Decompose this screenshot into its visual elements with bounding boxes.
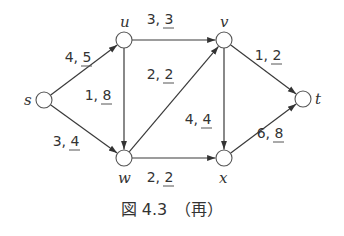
flow-value: 2, bbox=[147, 169, 165, 185]
flow-value: 1, bbox=[255, 47, 273, 63]
flow-value: 4, bbox=[65, 49, 83, 65]
capacity-value: 3 bbox=[164, 11, 173, 27]
node-label-u: u bbox=[120, 13, 130, 31]
node-u bbox=[116, 32, 132, 48]
node-x bbox=[216, 150, 232, 166]
capacity-value: 2 bbox=[164, 66, 173, 82]
flow-value: 3, bbox=[147, 11, 165, 27]
flow-value: 4, bbox=[185, 111, 203, 127]
node-t bbox=[295, 91, 311, 107]
flow-value: 3, bbox=[53, 133, 71, 149]
node-label-s: s bbox=[24, 91, 32, 109]
flow-value: 1, bbox=[85, 87, 103, 103]
capacity-value: 2 bbox=[164, 169, 173, 185]
capacity-value: 8 bbox=[274, 125, 283, 141]
node-s bbox=[36, 92, 52, 108]
node-label-x: x bbox=[219, 169, 228, 187]
node-label-v: v bbox=[220, 13, 229, 31]
edge-label-u-w: 1, 8 bbox=[85, 87, 112, 103]
figure-caption: 図 4.3 （再） bbox=[0, 196, 344, 220]
edge-label-v-x: 4, 4 bbox=[185, 111, 212, 127]
capacity-value: 5 bbox=[82, 49, 91, 65]
flow-value: 2, bbox=[147, 66, 165, 82]
flow-value: 6, bbox=[257, 125, 275, 141]
capacity-value: 4 bbox=[70, 133, 79, 149]
node-v bbox=[216, 32, 232, 48]
edge-label-s-u: 4, 5 bbox=[65, 49, 92, 65]
edge-label-w-v: 2, 2 bbox=[147, 66, 174, 82]
edge-w-v bbox=[129, 46, 218, 151]
edge-label-v-t: 1, 2 bbox=[255, 47, 282, 63]
node-label-t: t bbox=[315, 90, 322, 108]
edge-label-s-w: 3, 4 bbox=[53, 133, 80, 149]
capacity-value: 8 bbox=[102, 87, 111, 103]
edge-label-u-v: 3, 3 bbox=[147, 11, 174, 27]
capacity-value: 4 bbox=[202, 111, 211, 127]
node-label-w: w bbox=[118, 169, 131, 187]
edge-label-w-x: 2, 2 bbox=[147, 169, 174, 185]
node-w bbox=[116, 150, 132, 166]
capacity-value: 2 bbox=[272, 47, 281, 63]
edge-labels: 4, 53, 43, 31, 82, 24, 41, 22, 26, 8 bbox=[53, 11, 284, 186]
edge-label-x-t: 6, 8 bbox=[257, 125, 284, 141]
